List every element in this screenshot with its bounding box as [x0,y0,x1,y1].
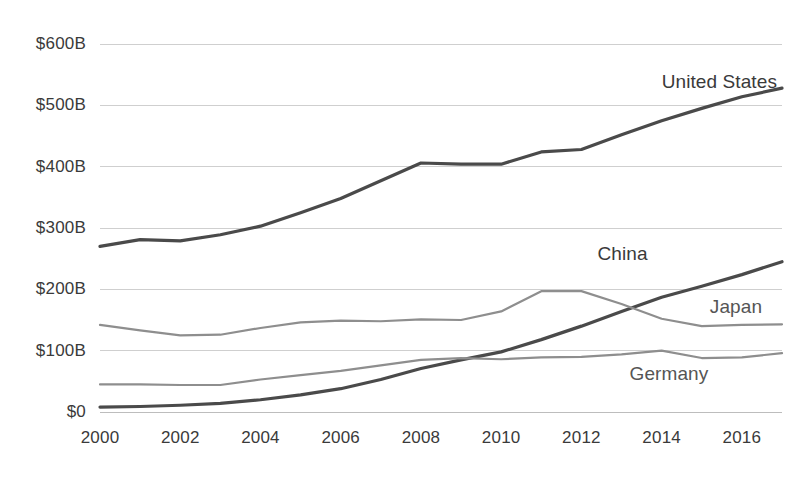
x-axis-tick-label: 2016 [723,428,762,448]
series-label-germany: Germany [630,363,709,385]
series-label-united-states: United States [662,71,777,93]
x-axis-tick-label: 2012 [562,428,601,448]
series-line-united-states [100,88,782,246]
x-axis-tick-label: 2006 [321,428,360,448]
x-axis-tick-label: 2004 [241,428,280,448]
x-axis-tick-label: 2008 [402,428,441,448]
series-label-japan: Japan [710,296,762,318]
x-axis-tick-label: 2002 [161,428,200,448]
gridline-group [100,44,782,412]
y-axis-tick-label: $300B [0,218,86,238]
series-path-group [100,88,782,407]
y-axis-tick-label: $500B [0,95,86,115]
line-chart: $0$100B$200B$300B$400B$500B$600B 2000200… [0,0,794,478]
x-axis-tick-label: 2000 [81,428,120,448]
y-axis-tick-label: $100B [0,341,86,361]
y-axis-tick-label: $0 [0,402,86,422]
series-label-china: China [597,243,647,265]
y-axis-tick-label: $200B [0,279,86,299]
x-axis-tick-label: 2010 [482,428,521,448]
series-line-japan [100,291,782,335]
y-axis-tick-label: $400B [0,157,86,177]
x-axis-tick-label: 2014 [642,428,681,448]
y-axis-tick-label: $600B [0,34,86,54]
